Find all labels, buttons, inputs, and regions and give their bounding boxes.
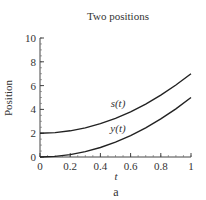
chart: Two positions 0246810 Position 00.20.40.… — [0, 0, 206, 200]
plot-lines — [40, 74, 191, 157]
x-tick-label: 1 — [188, 160, 194, 172]
series-label-s: s(t) — [111, 97, 126, 110]
series-label-y: y(t) — [109, 122, 126, 135]
y-tick-label: 6 — [31, 80, 37, 92]
chart-title: Two positions — [87, 10, 149, 22]
x-axis-label: t — [114, 170, 118, 182]
x-tick-label: 0 — [37, 160, 43, 172]
y-tick-label: 8 — [31, 56, 37, 68]
y-tick-label: 2 — [31, 127, 37, 139]
y-ticks: 0246810 — [25, 32, 44, 163]
y-tick-label: 4 — [31, 103, 37, 115]
y-tick-label: 10 — [25, 32, 37, 44]
figure-caption: a — [113, 185, 119, 199]
x-tick-label: 0.8 — [154, 160, 168, 172]
x-tick-label: 0.4 — [94, 160, 108, 172]
x-tick-label: 0.2 — [63, 160, 77, 172]
y-tick-label: 0 — [31, 151, 37, 163]
x-tick-label: 0.6 — [124, 160, 138, 172]
y-axis-label: Position — [2, 79, 14, 116]
